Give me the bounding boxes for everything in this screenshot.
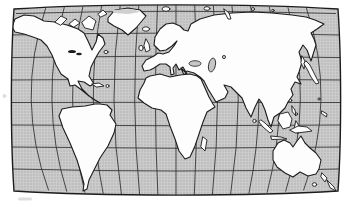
aral-sea (222, 55, 225, 58)
ireland-island (139, 45, 143, 50)
black-sea (189, 61, 201, 67)
svalbard-island (162, 7, 170, 12)
sri-lanka-island (253, 119, 256, 122)
page-speck (3, 94, 7, 98)
taiwan-island (289, 99, 292, 102)
world-map-illustration (0, 0, 352, 210)
philippine-islet (295, 113, 297, 115)
svalbard-east-island (204, 7, 210, 11)
pacific-islet (318, 98, 320, 100)
photocopy-smudge (18, 198, 32, 201)
great-lake-west (68, 50, 76, 53)
great-lake-east (76, 53, 82, 56)
newfoundland-island (104, 50, 108, 53)
arctic-islet (272, 9, 274, 11)
world-map-svg (0, 0, 352, 210)
tasmania-island (312, 183, 316, 187)
iceland-island (142, 27, 149, 31)
hispaniola-island (106, 85, 109, 88)
severnaya-zemlya-island (252, 8, 255, 11)
